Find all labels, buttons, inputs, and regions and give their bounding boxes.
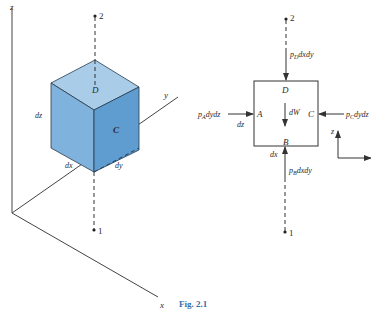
dx-label-right: dx bbox=[270, 150, 278, 159]
point-2-dot bbox=[93, 14, 96, 17]
y-axis-label: y bbox=[163, 90, 168, 100]
dy-label: dy bbox=[115, 161, 123, 170]
force-left-label: pAdydz bbox=[197, 110, 221, 120]
dz-label: dz bbox=[35, 111, 43, 120]
point-2-label: 2 bbox=[99, 11, 104, 21]
face-d-label: D bbox=[91, 85, 99, 95]
dz-label-right: dz bbox=[237, 120, 245, 129]
figure-canvas: z y x D C dz dx dy 2 1 2 pDdxdy D bbox=[0, 0, 371, 325]
face-c-label: C bbox=[113, 125, 120, 135]
x-axis-label: x bbox=[159, 300, 164, 310]
z-axis-label: z bbox=[9, 2, 14, 12]
point-1-label-right: 1 bbox=[289, 228, 294, 238]
face-a-label-right: A bbox=[256, 109, 263, 119]
point-1-label: 1 bbox=[98, 226, 103, 236]
right-panel: 2 pDdxdy D B A C dW pAdydz dz pCdydz dx … bbox=[197, 13, 371, 238]
z-indicator-label: z bbox=[330, 127, 335, 136]
x-axis bbox=[12, 213, 158, 297]
face-d-label-right: D bbox=[281, 85, 289, 95]
point-2-label-right: 2 bbox=[290, 13, 295, 23]
force-bottom-label: pBdxdy bbox=[288, 166, 312, 176]
force-right-label: pCdydz bbox=[345, 110, 370, 120]
face-c-label-right: C bbox=[308, 109, 315, 119]
dx-label: dx bbox=[65, 161, 73, 170]
left-panel: z y x D C dz dx dy 2 1 bbox=[9, 2, 178, 310]
cube bbox=[51, 60, 139, 172]
point-1-dot bbox=[92, 228, 95, 231]
face-b-label-right: B bbox=[283, 137, 289, 147]
weight-label: dW bbox=[289, 108, 301, 117]
point-1-dot-right bbox=[283, 230, 286, 233]
force-top-label: pDdxdy bbox=[289, 50, 314, 60]
figure-caption: Fig. 2.1 bbox=[179, 299, 208, 309]
